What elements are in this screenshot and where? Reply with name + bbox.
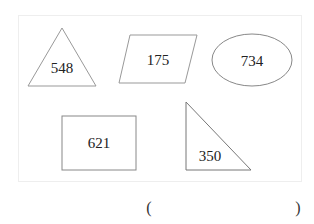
- ellipse-label: 734: [241, 53, 264, 70]
- triangle-shape: [28, 28, 96, 86]
- rectangle-label: 621: [88, 135, 111, 152]
- triangle-label: 548: [51, 60, 74, 77]
- right-triangle-label: 350: [199, 148, 222, 165]
- parallelogram-label: 175: [147, 52, 170, 69]
- shapes-canvas: [0, 0, 314, 224]
- answer-open-paren: (: [146, 199, 151, 217]
- answer-close-paren: ): [295, 199, 300, 217]
